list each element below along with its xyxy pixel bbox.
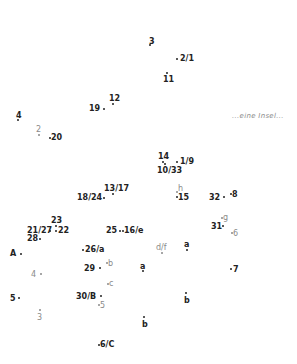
dot-point-icon[interactable] <box>103 197 105 199</box>
dot-point-icon[interactable] <box>18 297 20 299</box>
dot-label: 20 <box>51 133 62 142</box>
dot-point-icon[interactable] <box>100 295 102 297</box>
dot-label: 18/24 <box>77 193 102 202</box>
dot-point-icon[interactable] <box>230 268 232 270</box>
dot-label: 16/e <box>124 226 143 235</box>
dot-point-icon[interactable] <box>186 249 188 251</box>
dot-point-icon[interactable] <box>99 267 101 269</box>
dot-point-icon[interactable] <box>55 225 57 227</box>
dot-label: d/f <box>156 243 167 252</box>
dot-label: 1/9 <box>180 157 194 166</box>
dot-label: 10/33 <box>157 166 182 175</box>
dot-point-icon[interactable] <box>185 292 187 294</box>
dot-label: h <box>178 184 183 193</box>
dot-point-icon[interactable] <box>39 309 41 311</box>
dot-label: 26/a <box>85 245 104 254</box>
dot-label: 25 <box>106 226 117 235</box>
dot-point-icon[interactable] <box>103 108 105 110</box>
dot-point-icon[interactable] <box>38 134 40 136</box>
dot-label: 2 <box>36 125 41 134</box>
dot-point-icon[interactable] <box>112 103 114 105</box>
dot-label: 23 <box>51 216 62 225</box>
dot-label: a <box>184 240 189 249</box>
dot-point-icon[interactable] <box>176 161 178 163</box>
connect-the-dots-puzzle: ...eine Insel... 32/11112194220141/910/3… <box>0 0 297 364</box>
dot-label: 30/B <box>76 292 96 301</box>
dot-label: 6 <box>233 229 238 238</box>
dot-label: 11 <box>163 75 174 84</box>
dot-label: b <box>108 259 113 268</box>
dot-label: 12 <box>109 94 120 103</box>
dot-label: 32 <box>209 193 220 202</box>
dot-label: 8 <box>232 190 238 199</box>
dot-point-icon[interactable] <box>222 225 224 227</box>
dot-label: a <box>140 262 145 271</box>
dot-point-icon[interactable] <box>161 252 163 254</box>
dot-point-icon[interactable] <box>39 238 41 240</box>
dot-label: 5 <box>10 294 16 303</box>
dot-label: 28 <box>27 234 38 243</box>
dot-label: 19 <box>89 104 100 113</box>
dot-label: 15 <box>178 193 189 202</box>
dot-point-icon[interactable] <box>166 72 168 74</box>
dot-label: 4 <box>31 270 36 279</box>
dot-label: 7 <box>233 265 239 274</box>
dot-point-icon[interactable] <box>176 58 178 60</box>
dot-label: A <box>10 249 16 258</box>
dot-point-icon[interactable] <box>143 316 145 318</box>
dot-point-icon[interactable] <box>40 273 42 275</box>
dot-label: 6/C <box>100 340 114 349</box>
dot-label: 22 <box>58 226 69 235</box>
dot-label: 2/1 <box>180 54 194 63</box>
dot-label: 3 <box>149 37 155 46</box>
dot-label: 13/17 <box>104 184 129 193</box>
dot-label: b <box>184 296 190 305</box>
dot-point-icon[interactable] <box>20 253 22 255</box>
dot-label: 4 <box>16 111 22 120</box>
dot-label: b <box>142 320 148 329</box>
puzzle-caption: ...eine Insel... <box>232 112 284 120</box>
dot-label: 31 <box>211 222 222 231</box>
dot-label: c <box>109 279 113 288</box>
dot-point-icon[interactable] <box>55 230 57 232</box>
dot-point-icon[interactable] <box>119 230 121 232</box>
dot-point-icon[interactable] <box>164 163 166 165</box>
dot-label: 29 <box>84 264 95 273</box>
dot-point-icon[interactable] <box>82 249 84 251</box>
dot-label: 5 <box>100 301 105 310</box>
dot-point-icon[interactable] <box>223 196 225 198</box>
dot-label: 14 <box>158 152 169 161</box>
dot-label: g <box>223 213 228 222</box>
dot-label: 3 <box>37 313 42 322</box>
dot-point-icon[interactable] <box>112 193 114 195</box>
